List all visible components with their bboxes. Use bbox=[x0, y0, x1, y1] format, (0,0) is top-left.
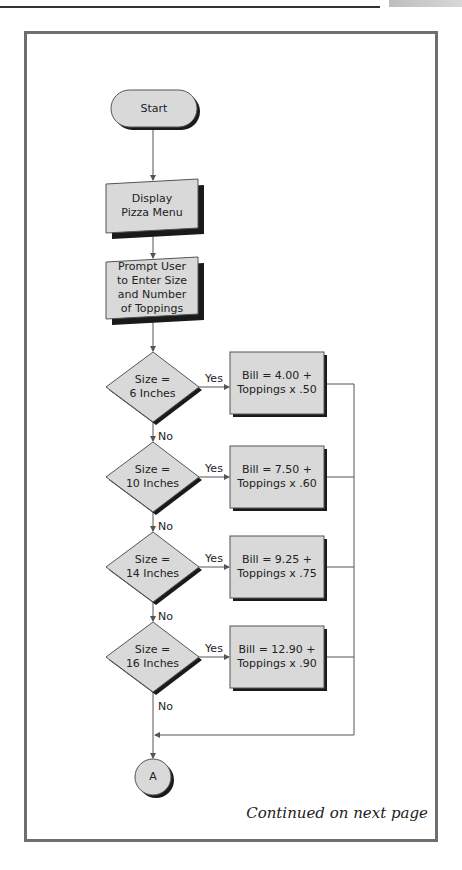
no-label-6: No bbox=[158, 430, 178, 444]
decision-14-line1: Size = bbox=[106, 553, 199, 567]
display-label-2: Pizza Menu bbox=[106, 206, 198, 220]
connector-a-label: A bbox=[135, 770, 171, 784]
decision-14-line2: 14 Inches bbox=[106, 567, 199, 581]
yes-label-6: Yes bbox=[202, 372, 226, 386]
yes-label-16: Yes bbox=[202, 642, 226, 656]
continued-note: Continued on next page bbox=[246, 804, 428, 822]
bill-14-line1: Bill = 9.25 + bbox=[230, 553, 324, 567]
prompt-label-1: Prompt User bbox=[106, 260, 198, 274]
prompt-label-3: and Number bbox=[106, 288, 198, 302]
flowchart-diagram bbox=[0, 0, 462, 870]
yes-label-14: Yes bbox=[202, 552, 226, 566]
decision-6-line2: 6 Inches bbox=[106, 387, 199, 401]
bill-10-line1: Bill = 7.50 + bbox=[230, 463, 324, 477]
decision-6-line1: Size = bbox=[106, 373, 199, 387]
no-label-10: No bbox=[158, 520, 178, 534]
prompt-label-4: of Toppings bbox=[106, 302, 198, 316]
display-label-1: Display bbox=[106, 192, 198, 206]
bill-16-line1: Bill = 12.90 + bbox=[230, 643, 324, 657]
bill-6-line1: Bill = 4.00 + bbox=[230, 369, 324, 383]
decision-16-line2: 16 Inches bbox=[106, 657, 199, 671]
bill-14-line2: Toppings x .75 bbox=[230, 567, 324, 581]
no-label-14: No bbox=[158, 610, 178, 624]
bill-10-line2: Toppings x .60 bbox=[230, 477, 324, 491]
prompt-label-2: to Enter Size bbox=[106, 274, 198, 288]
yes-label-10: Yes bbox=[202, 462, 226, 476]
start-label: Start bbox=[111, 102, 197, 116]
decision-10-line2: 10 Inches bbox=[106, 477, 199, 491]
decision-10-line1: Size = bbox=[106, 463, 199, 477]
no-label-16: No bbox=[158, 700, 178, 714]
bill-16-line2: Toppings x .90 bbox=[230, 657, 324, 671]
decision-16-line1: Size = bbox=[106, 643, 199, 657]
bill-6-line2: Toppings x .50 bbox=[230, 383, 324, 397]
